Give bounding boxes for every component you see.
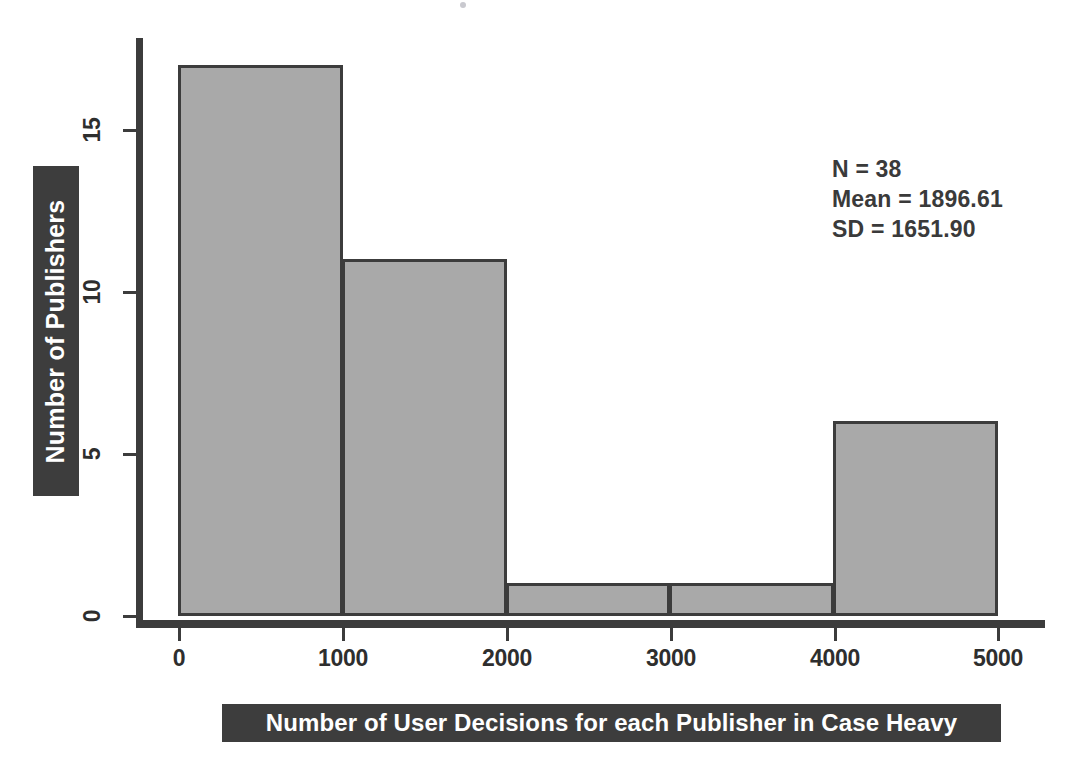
x-tick-mark (342, 628, 345, 641)
statistics-annotation: N = 38 Mean = 1896.61 SD = 1651.90 (832, 155, 1003, 245)
y-tick-mark (123, 453, 136, 456)
x-axis-title-box: Number of User Decisions for each Publis… (222, 704, 1001, 742)
x-tick-label: 1000 (318, 645, 368, 672)
x-tick-label: 4000 (810, 645, 860, 672)
x-tick-mark (997, 628, 1000, 641)
x-tick-label: 5000 (973, 645, 1023, 672)
histogram-bar (342, 259, 507, 616)
x-tick-label: 0 (173, 645, 186, 672)
histogram-bar (506, 583, 670, 616)
y-tick-label: 5 (79, 448, 106, 461)
y-tick-mark (123, 291, 136, 294)
y-tick-label: 10 (79, 280, 106, 305)
stat-sd: SD = 1651.90 (832, 215, 1003, 245)
x-tick-mark (834, 628, 837, 641)
y-tick-label: 0 (79, 610, 106, 623)
histogram-bar (669, 583, 834, 616)
x-tick-mark (670, 628, 673, 641)
histogram-bar (833, 421, 998, 616)
x-axis-line (136, 620, 1045, 628)
y-axis-title: Number of Publishers (42, 199, 71, 463)
y-tick-label: 15 (79, 118, 106, 143)
histogram-bar (178, 65, 343, 616)
x-axis-title: Number of User Decisions for each Publis… (266, 709, 957, 737)
x-tick-label: 3000 (646, 645, 696, 672)
x-tick-label: 2000 (482, 645, 532, 672)
y-tick-mark (123, 615, 136, 618)
y-axis-title-box: Number of Publishers (33, 166, 79, 496)
stat-mean: Mean = 1896.61 (832, 185, 1003, 215)
stat-n: N = 38 (832, 155, 1003, 185)
histogram-figure: 0 1000 2000 3000 4000 5000 0 5 10 15 Num… (0, 0, 1071, 779)
x-tick-mark (178, 628, 181, 641)
y-tick-mark (123, 129, 136, 132)
scan-artifact-speck (460, 2, 466, 8)
x-tick-mark (506, 628, 509, 641)
y-axis-line (136, 38, 143, 624)
